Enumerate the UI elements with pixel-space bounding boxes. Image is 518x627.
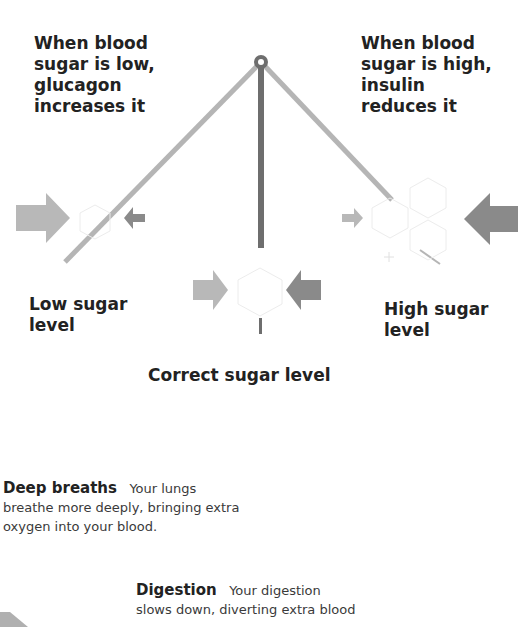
arrow-right-large-icon: [16, 193, 70, 243]
caption-title: Deep breaths: [3, 479, 117, 497]
decorative-shape: [0, 612, 28, 627]
pendulum-tail: [259, 318, 262, 334]
arrow-left-large-icon: [464, 193, 518, 245]
high-sugar-level-label: High sugar level: [384, 299, 489, 341]
arrow-left-icon: [286, 270, 321, 310]
glucose-hexagon-icon: [372, 198, 408, 238]
glucose-hexagon-icon: [410, 178, 446, 218]
low-sugar-level-label: Low sugar level: [29, 294, 127, 336]
caption-deep-breaths: Deep breaths Your lungs breathe more dee…: [3, 479, 323, 536]
high-sugar-note: When blood sugar is high, insulin reduce…: [361, 33, 492, 117]
low-sugar-note: When blood sugar is low, glucagon increa…: [34, 33, 155, 117]
glucose-hexagon-icon: [238, 268, 282, 316]
pendulum-rod: [258, 62, 264, 248]
arrow-left-small-icon: [124, 207, 145, 229]
correct-sugar-level-label: Correct sugar level: [148, 365, 331, 386]
arrow-right-icon: [193, 270, 228, 310]
arrow-right-small-icon: [342, 208, 363, 228]
caption-digestion: Digestion Your digestion slows down, div…: [136, 581, 456, 619]
caption-title: Digestion: [136, 581, 217, 599]
glucose-hexagon-icon: [410, 220, 446, 260]
